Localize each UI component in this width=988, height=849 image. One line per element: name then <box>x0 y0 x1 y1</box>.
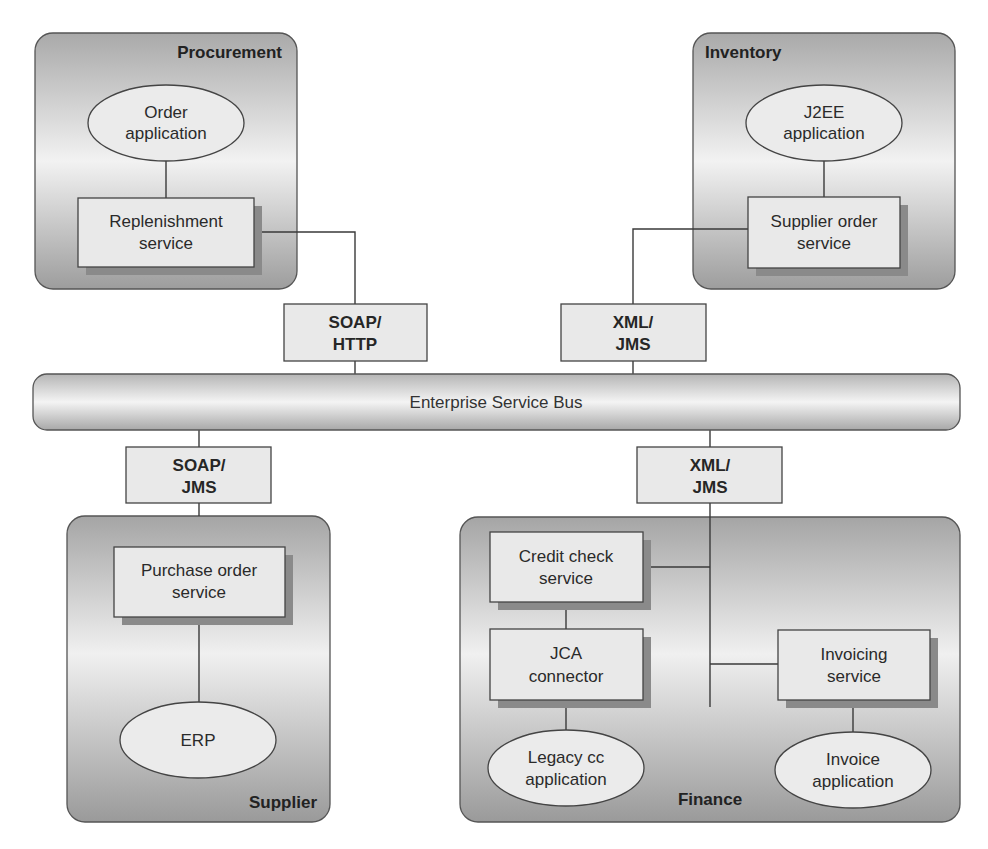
protocol-soap-http: SOAP/ HTTP <box>284 304 427 361</box>
bus-label: Enterprise Service Bus <box>410 393 583 412</box>
svg-text:JMS: JMS <box>693 478 728 497</box>
svg-text:Order: Order <box>144 103 188 122</box>
protocol-xml-jms-inventory: XML/ JMS <box>561 304 706 361</box>
svg-text:service: service <box>539 569 593 588</box>
svg-text:Supplier order: Supplier order <box>771 212 878 231</box>
svg-text:service: service <box>139 234 193 253</box>
erp-application: ERP <box>120 702 276 778</box>
replenishment-service: Replenishment service <box>78 198 262 275</box>
svg-text:HTTP: HTTP <box>333 335 377 354</box>
svg-text:Purchase order: Purchase order <box>141 561 258 580</box>
svg-text:Legacy cc: Legacy cc <box>528 748 605 767</box>
svg-text:J2EE: J2EE <box>804 103 845 122</box>
svg-text:Invoicing: Invoicing <box>820 645 887 664</box>
purchase-order-service: Purchase order service <box>114 547 293 625</box>
jca-connector: JCA connector <box>490 629 651 708</box>
order-application: Order application <box>88 85 244 161</box>
protocol-soap-jms: SOAP/ JMS <box>126 447 271 503</box>
svg-text:application: application <box>525 770 606 789</box>
svg-text:SOAP/: SOAP/ <box>173 456 226 475</box>
invoicing-service: Invoicing service <box>778 630 938 708</box>
svg-text:XML/: XML/ <box>613 313 654 332</box>
svg-text:service: service <box>827 667 881 686</box>
svg-text:application: application <box>783 124 864 143</box>
j2ee-application: J2EE application <box>746 85 902 161</box>
svg-text:XML/: XML/ <box>690 456 731 475</box>
svg-text:JMS: JMS <box>182 478 217 497</box>
svg-text:SOAP/: SOAP/ <box>329 313 382 332</box>
svg-text:JMS: JMS <box>616 335 651 354</box>
supplier-order-service: Supplier order service <box>748 197 908 276</box>
svg-text:application: application <box>125 124 206 143</box>
svg-text:service: service <box>797 234 851 253</box>
svg-text:Invoice: Invoice <box>826 750 880 769</box>
procurement-title: Procurement <box>177 43 282 62</box>
finance-title: Finance <box>678 790 742 809</box>
inventory-title: Inventory <box>705 43 782 62</box>
svg-text:JCA: JCA <box>550 644 583 663</box>
svg-text:connector: connector <box>529 667 604 686</box>
enterprise-service-bus: Enterprise Service Bus <box>33 374 960 430</box>
esb-diagram: Enterprise Service Bus SOAP/ HTTP XML/ J… <box>0 0 988 849</box>
svg-text:ERP: ERP <box>181 731 216 750</box>
credit-check-service: Credit check service <box>490 532 651 610</box>
svg-text:service: service <box>172 583 226 602</box>
protocol-xml-jms-finance: XML/ JMS <box>637 447 782 503</box>
supplier-title: Supplier <box>249 793 317 812</box>
legacy-cc-application: Legacy cc application <box>488 730 644 806</box>
invoice-application: Invoice application <box>775 732 931 808</box>
svg-text:application: application <box>812 772 893 791</box>
svg-text:Replenishment: Replenishment <box>109 212 223 231</box>
svg-text:Credit check: Credit check <box>519 547 614 566</box>
